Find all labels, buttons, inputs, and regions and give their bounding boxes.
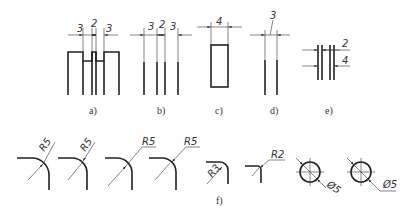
diameter-label: Ø5	[382, 179, 397, 190]
subfigure-e: 2 4 e)	[302, 38, 350, 117]
radius-label: R5	[78, 136, 95, 153]
caption-e: e)	[325, 105, 333, 117]
subfigure-c: 4 c)	[197, 16, 242, 117]
radius-label: R5	[142, 136, 155, 147]
subfigure-a: 3 2 3 a)	[68, 18, 119, 117]
caption-b: b)	[157, 105, 165, 117]
dimensioning-diagram: 3 2 3 a) 3 2 3 b) 4 c)	[0, 0, 407, 220]
dim-label: 4	[216, 16, 222, 27]
caption-d: d)	[270, 105, 278, 117]
radius-label: R3	[205, 162, 222, 179]
subfigure-f: R5 R5 R5 R5 R3 f) R2	[17, 136, 397, 207]
caption-f: f)	[216, 195, 223, 207]
dim-label: 4	[342, 55, 348, 66]
radius-label: R5	[184, 136, 197, 147]
dim-label: 2	[342, 38, 348, 49]
dim-label: 2	[159, 19, 165, 30]
dim-label: 3	[170, 21, 176, 32]
dim-label: 3	[106, 23, 112, 34]
diameter-label: Ø5	[324, 178, 343, 196]
radius-label: R2	[271, 149, 284, 160]
caption-a: a)	[89, 105, 97, 117]
subfigure-d: 3 d)	[250, 10, 290, 117]
dim-label: 3	[270, 10, 276, 21]
dim-label: 3	[77, 23, 83, 34]
radius-label: R5	[37, 136, 54, 153]
caption-c: c)	[215, 105, 223, 117]
subfigure-b: 3 2 3 b)	[130, 19, 192, 117]
dim-label: 2	[91, 18, 97, 29]
dim-label: 3	[148, 21, 154, 32]
